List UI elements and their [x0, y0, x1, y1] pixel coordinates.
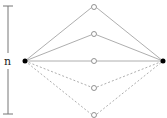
sink-node — [161, 59, 166, 64]
bracket-label: n — [4, 55, 11, 68]
middle-node-4 — [92, 86, 97, 91]
middle-node-5 — [92, 113, 97, 118]
middle-node-3 — [92, 59, 97, 64]
parallel-paths-diagram: n — [0, 0, 167, 118]
middle-node-1 — [92, 5, 97, 10]
middle-nodes — [92, 5, 97, 118]
middle-node-2 — [92, 32, 97, 37]
source-node — [23, 59, 28, 64]
